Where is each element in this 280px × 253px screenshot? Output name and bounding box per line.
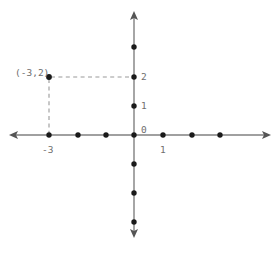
- x-tick-dot-3: [217, 132, 222, 137]
- y-tick-dot-neg3: [131, 219, 136, 224]
- x-tick-dot-neg2: [75, 132, 80, 137]
- x-axis-label-1: 1: [160, 144, 166, 155]
- y-tick-dot-neg1: [131, 161, 136, 166]
- x-tick-dot-2: [189, 132, 194, 137]
- guide-lines-group: [49, 77, 132, 133]
- coordinate-plane-svg: 0 1 2 1 -3 (-3,2): [0, 0, 280, 253]
- x-axis-label-neg3: -3: [42, 144, 53, 155]
- axes-group: [9, 11, 271, 238]
- axis-labels-group: 0 1 2 1 -3 (-3,2): [15, 67, 166, 155]
- y-tick-dot-1: [131, 103, 136, 108]
- x-tick-dot-neg3: [46, 132, 51, 137]
- plotted-point-label: (-3,2): [15, 67, 49, 78]
- y-tick-dot-2: [131, 74, 136, 79]
- x-tick-dot-1: [160, 132, 165, 137]
- origin-dot: [131, 132, 136, 137]
- coordinate-plane-figure: 0 1 2 1 -3 (-3,2): [0, 0, 280, 253]
- origin-label: 0: [141, 124, 147, 135]
- x-tick-dot-neg1: [103, 132, 108, 137]
- y-axis-label-2: 2: [141, 71, 147, 82]
- y-tick-dot-neg2: [131, 190, 136, 195]
- y-tick-dot-3: [131, 44, 136, 49]
- y-axis-label-1: 1: [141, 100, 147, 111]
